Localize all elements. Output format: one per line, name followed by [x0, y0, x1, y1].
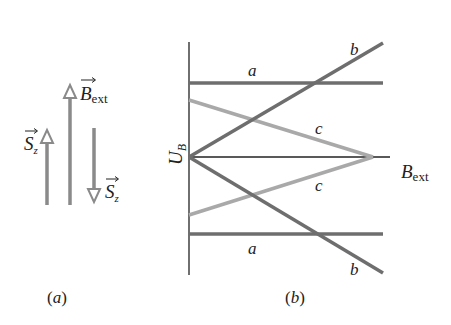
spin-up-arrow-icon [41, 130, 53, 205]
figure-canvas: Sz Bext Sz (a) [0, 0, 451, 325]
panel-a: Sz Bext Sz (a) [24, 78, 120, 308]
line-c-lower [189, 157, 373, 215]
label-a-lower: a [248, 239, 257, 258]
label-b-lower: b [350, 260, 359, 279]
y-axis-label: UB [165, 143, 189, 165]
b-ext-arrow-icon [64, 85, 76, 205]
panel-b: a a b b c c UB Bext (b) [165, 40, 429, 307]
panel-a-caption: (a) [47, 288, 67, 307]
spin-down-arrow-icon [88, 128, 100, 202]
x-axis-label: Bext [401, 161, 429, 184]
line-b-upper [189, 43, 383, 157]
spin-up-label: Sz [24, 133, 39, 156]
spin-down-label: Sz [105, 181, 120, 204]
label-c-lower: c [315, 176, 323, 195]
label-a-upper: a [248, 61, 257, 80]
b-ext-label: Bext [80, 83, 108, 106]
line-b-lower [189, 157, 383, 273]
label-c-upper: c [315, 119, 323, 138]
line-c-upper [189, 100, 373, 157]
vector-arrow-icon [81, 78, 96, 83]
panel-b-caption: (b) [285, 288, 305, 307]
label-b-upper: b [350, 40, 359, 59]
